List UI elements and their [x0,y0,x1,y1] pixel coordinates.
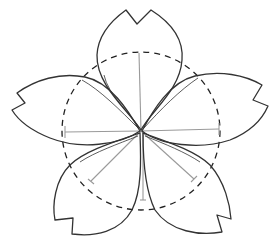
sakura-diagram [0,0,280,247]
petals [12,10,268,235]
petal-bottom-left [54,133,141,235]
petal-bottom-right [143,133,231,233]
petal-left [12,75,140,144]
